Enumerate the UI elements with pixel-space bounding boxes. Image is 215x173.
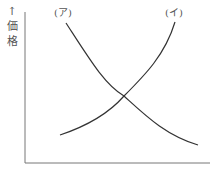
curve-i bbox=[60, 22, 175, 135]
curve-a-label: (ア) bbox=[54, 4, 72, 19]
supply-demand-chart: ↑ 価 格 (ア) (イ) bbox=[0, 0, 215, 173]
y-axis-label: ↑ 価 格 bbox=[6, 4, 18, 49]
y-label-char-1: 価 bbox=[6, 19, 18, 34]
chart-svg bbox=[0, 0, 215, 173]
y-label-char-2: 格 bbox=[6, 34, 18, 49]
curve-a bbox=[66, 23, 198, 145]
up-arrow-icon: ↑ bbox=[6, 4, 18, 19]
curve-i-label: (イ) bbox=[165, 4, 183, 19]
